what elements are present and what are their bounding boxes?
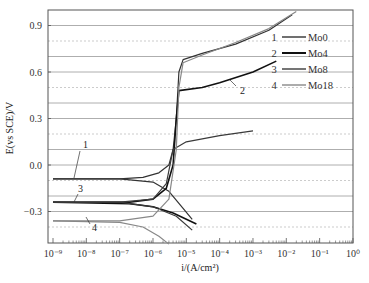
y-axis-ticks: 0.90.60.30.0−0.3 [24,20,51,217]
legend-number: 4 [271,80,277,91]
x-tick-label: 10⁻⁴ [210,248,229,259]
curves [53,12,296,245]
curve-label: 1 [83,139,88,150]
polarization-chart: 0.90.60.30.0−0.3 10⁻⁹10⁻⁸10⁻⁷10⁻⁶10⁻⁵10⁻… [0,0,369,283]
x-tick-label: 10⁻⁹ [44,248,63,259]
legend-number: 2 [271,48,276,59]
x-tick-label: 10⁰ [346,248,360,259]
x-tick-label: 10⁻² [277,248,295,259]
y-tick-label: 0.3 [30,113,43,124]
curve-mo8-cathodic [53,202,192,230]
x-tick-label: 10⁻³ [244,248,262,259]
curve-mo4-anodic [53,61,276,202]
legend-number: 1 [271,32,276,43]
y-tick-label: −0.3 [24,206,42,217]
x-tick-label: 10⁻⁷ [110,248,129,259]
legend-label: Mo0 [308,32,328,43]
y-axis-title: E(vs SCE)/V [4,101,16,154]
legend-label: Mo8 [308,64,328,75]
legend-number: 3 [271,64,276,75]
curve-label: 2 [240,85,245,96]
y-tick-label: 0.6 [30,67,43,78]
y-tick-label: 0.9 [30,20,43,31]
curve-label: 3 [78,183,83,194]
y-tick-label: 0.0 [30,160,43,171]
x-tick-label: 10⁻⁶ [144,248,163,259]
x-axis-ticks: 10⁻⁹10⁻⁸10⁻⁷10⁻⁶10⁻⁵10⁻⁴10⁻³10⁻²10⁻¹10⁰ [44,238,360,259]
x-tick-label: 10⁻¹ [311,248,329,259]
x-axis-title: i/(A/cm²) [181,262,218,274]
legend: 1Mo02Mo43Mo84Mo18 [271,32,333,91]
x-tick-label: 10⁻⁸ [77,248,96,259]
plot-frame [48,10,353,243]
x-tick-label: 10⁻⁵ [177,248,196,259]
curve-label: 4 [92,222,97,233]
legend-label: Mo4 [308,48,329,59]
legend-label: Mo18 [308,80,333,91]
curve-mo18-anodic [53,12,296,221]
